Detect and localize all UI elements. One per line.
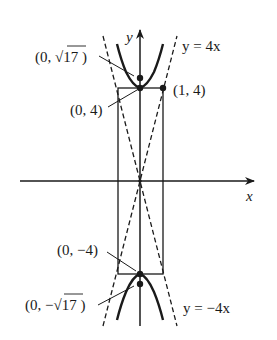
vertex-bottom-point xyxy=(137,271,143,277)
focus-top-label: (0, √17 ) xyxy=(35,49,87,66)
x-axis-label: x xyxy=(245,188,253,204)
vertex-bottom-label: (0, −4) xyxy=(57,242,98,259)
focus-bottom-label: (0, −√17 ) xyxy=(25,297,85,314)
origin-point xyxy=(138,179,142,183)
hyperbola-diagram: y x (0, √17 ) (0, 4) (1, 4) (0, −4) (0, … xyxy=(0,0,277,340)
leader-vertex-top xyxy=(108,90,137,107)
focus-top-point xyxy=(137,75,143,81)
vertex-top-label: (0, 4) xyxy=(70,102,103,119)
corner-label: (1, 4) xyxy=(173,82,206,99)
leader-focus-bottom xyxy=(98,286,134,305)
y-axis-label: y xyxy=(124,29,133,45)
asymptote-bottom-label: y = −4x xyxy=(183,300,230,316)
leader-focus-top xyxy=(99,56,134,76)
focus-bottom-point xyxy=(137,281,143,287)
vertex-top-point xyxy=(137,85,143,91)
corner-point xyxy=(160,85,166,91)
asymptote-top-label: y = 4x xyxy=(182,38,221,54)
